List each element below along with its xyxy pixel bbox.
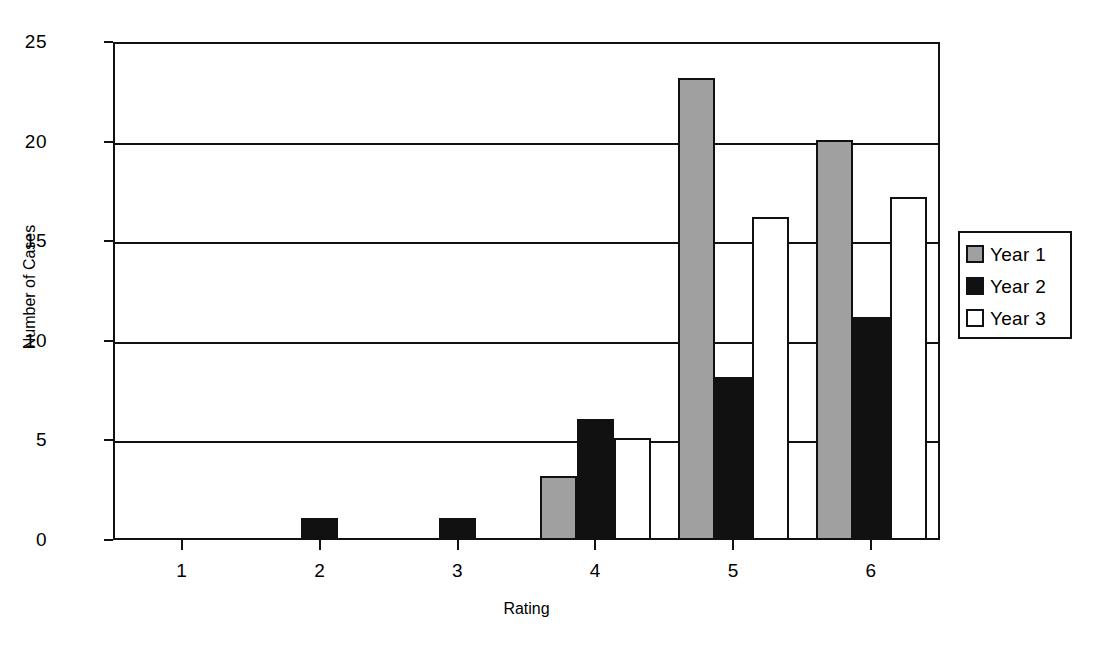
bar-year-3-rating-5 (752, 217, 789, 540)
y-tick-label: 10 (1, 331, 47, 350)
bar-year-2-rating-2 (301, 518, 338, 540)
black-swatch-icon (966, 277, 984, 295)
x-tick-mark (181, 540, 183, 550)
y-tick-mark (104, 439, 113, 441)
x-tick-mark (870, 540, 872, 550)
x-tick-mark (732, 540, 734, 550)
y-tick-label: 25 (1, 32, 47, 51)
y-tick-mark (104, 41, 113, 43)
y-tick-mark (104, 240, 113, 242)
bar-year-3-rating-4 (614, 438, 651, 540)
x-tick-label: 2 (290, 560, 350, 582)
x-tick-mark (319, 540, 321, 550)
bar-year-3-rating-6 (890, 197, 927, 540)
x-tick-label: 5 (703, 560, 763, 582)
chart-legend: Year 1Year 2Year 3 (958, 231, 1072, 339)
bar-year-2-rating-5 (715, 377, 752, 540)
x-tick-label: 1 (152, 560, 212, 582)
x-tick-label: 3 (428, 560, 488, 582)
legend-item: Year 2 (966, 270, 1070, 302)
bar-year-1-rating-4 (540, 476, 577, 540)
x-tick-mark (594, 540, 596, 550)
y-axis: Number of Cases 0510152025 (0, 0, 113, 651)
bar-year-1-rating-6 (816, 140, 853, 540)
x-tick-label: 4 (565, 560, 625, 582)
bar-year-2-rating-3 (439, 518, 476, 540)
y-tick-label: 5 (1, 430, 47, 449)
x-tick-label: 6 (841, 560, 901, 582)
y-tick-label: 0 (1, 530, 47, 549)
y-tick-mark (104, 141, 113, 143)
bars-layer (113, 42, 940, 540)
legend-item-label: Year 1 (990, 245, 1046, 264)
white-swatch-icon (966, 309, 984, 327)
bar-year-2-rating-4 (577, 419, 614, 541)
legend-item-label: Year 2 (990, 277, 1046, 296)
x-axis-title: Rating (113, 600, 940, 618)
bar-chart: Number of Cases 0510152025 123456 Rating… (0, 0, 1095, 651)
x-tick-mark (457, 540, 459, 550)
legend-item-label: Year 3 (990, 309, 1046, 328)
y-tick-label: 20 (1, 132, 47, 151)
y-axis-title: Number of Cases (21, 177, 39, 397)
y-tick-mark (104, 539, 113, 541)
gray-swatch-icon (966, 245, 984, 263)
legend-item: Year 1 (966, 238, 1070, 270)
y-tick-mark (104, 340, 113, 342)
y-tick-label: 15 (1, 231, 47, 250)
bar-year-1-rating-5 (678, 78, 715, 540)
bar-year-2-rating-6 (853, 317, 890, 540)
legend-item: Year 3 (966, 302, 1070, 334)
